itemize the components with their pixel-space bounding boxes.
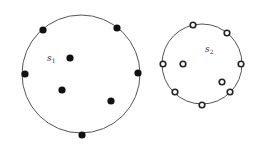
set-s1-point (21, 70, 28, 77)
set-s2-point (224, 30, 230, 36)
set-s2-point (160, 61, 166, 67)
set-s2-point (199, 102, 205, 108)
set-s1-point (39, 26, 46, 33)
set-s2-point (227, 89, 233, 95)
set-s2-points (160, 22, 244, 108)
set-s1-point (78, 131, 85, 138)
set-s1-point (66, 54, 73, 61)
set-s1-label: s1 (47, 54, 55, 64)
set-s1-point (107, 97, 114, 104)
set-s2-point (219, 79, 225, 85)
set-s2-point (190, 22, 196, 28)
set-s1-point (58, 86, 65, 93)
set-s2-point (172, 89, 178, 95)
set-s2-label-subscript: 2 (210, 48, 214, 55)
set-s1-point (113, 24, 120, 31)
set-s2 (160, 22, 244, 108)
set-diagram (0, 0, 276, 144)
set-s1-points (21, 24, 141, 138)
set-s1-label-subscript: 1 (52, 57, 56, 64)
set-s1-boundary (22, 15, 140, 133)
set-s2-point (238, 61, 244, 67)
set-s2-point (180, 61, 186, 67)
set-s1 (21, 15, 141, 139)
set-s2-label: s2 (205, 45, 213, 55)
set-s1-point (134, 69, 141, 76)
